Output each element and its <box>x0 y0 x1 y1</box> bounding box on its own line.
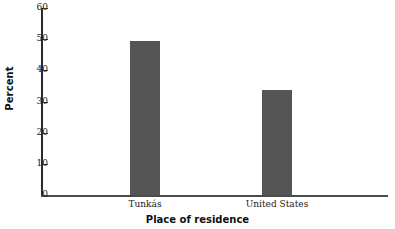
bar <box>130 41 160 195</box>
x-tick-label: United States <box>217 199 337 209</box>
bar-chart: Percent 0102030405060 TunkásUnited State… <box>0 0 395 229</box>
x-tick-label: Tunkás <box>85 199 205 209</box>
plot-area <box>0 0 395 195</box>
x-axis-line <box>41 195 388 197</box>
x-axis-title: Place of residence <box>0 214 395 225</box>
bar <box>262 90 292 195</box>
